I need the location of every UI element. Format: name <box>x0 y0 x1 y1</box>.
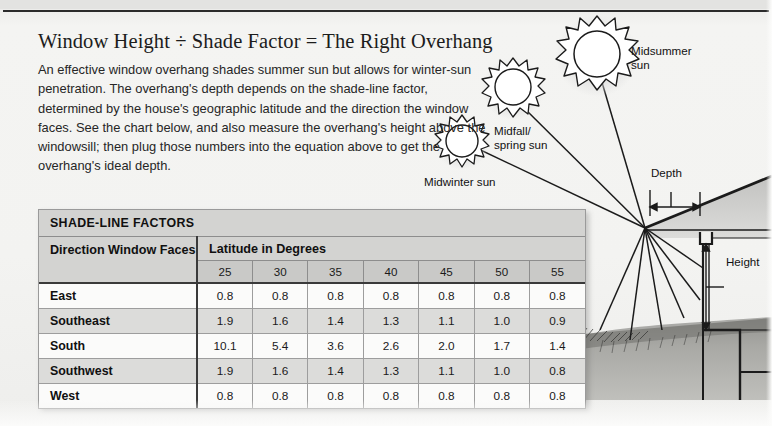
cell-east-35: 0.8 <box>308 283 363 309</box>
shade-line-factors-table: SHADE-LINE FACTORS Direction Window Face… <box>38 209 586 409</box>
cell-south-35: 3.6 <box>308 334 363 359</box>
cell-southwest-50: 1.0 <box>474 359 529 384</box>
cell-east-45: 0.8 <box>419 283 474 309</box>
cell-east-50: 0.8 <box>474 283 529 309</box>
cell-south-25: 10.1 <box>197 334 252 359</box>
cell-east-55: 0.8 <box>529 283 585 309</box>
row-label-southwest: Southwest <box>39 359 197 384</box>
cell-south-40: 2.6 <box>363 334 418 359</box>
column-header-lat-30: 30 <box>252 261 307 284</box>
cell-east-25: 0.8 <box>197 283 252 309</box>
cell-southwest-35: 1.4 <box>308 359 363 384</box>
table-body: SHADE-LINE FACTORS Direction Window Face… <box>39 210 585 408</box>
table-group-header-row: Direction Window Faces Latitude in Degre… <box>39 237 585 261</box>
cell-southeast-40: 1.3 <box>363 309 418 334</box>
cell-southwest-55: 0.8 <box>529 359 585 384</box>
midfall-spring-sun-icon <box>482 58 545 120</box>
row-label-southeast: Southeast <box>39 309 197 334</box>
cell-southeast-55: 0.9 <box>529 309 585 334</box>
column-header-lat-35: 35 <box>308 261 363 284</box>
label-depth: Depth <box>651 166 682 180</box>
cell-southeast-30: 1.6 <box>252 309 307 334</box>
cell-southeast-35: 1.4 <box>308 309 363 334</box>
right-edge-fade <box>766 0 772 426</box>
cell-southwest-25: 1.9 <box>197 359 252 384</box>
intro-paragraph: An effective window overhang shades summ… <box>38 60 490 176</box>
cell-south-55: 1.4 <box>529 334 585 359</box>
label-midfall-spring-sun: Midfall/ spring sun <box>494 124 548 152</box>
row-header-label: Direction Window Faces <box>39 237 197 284</box>
label-midwinter-sun: Midwinter sun <box>424 175 496 189</box>
cell-south-30: 5.4 <box>252 334 307 359</box>
cell-southwest-30: 1.6 <box>252 359 307 384</box>
midsummer-sun-icon <box>556 15 639 97</box>
table-row: Southwest 1.9 1.6 1.4 1.3 1.1 1.0 0.8 <box>39 359 585 384</box>
column-header-lat-45: 45 <box>419 261 474 284</box>
table-caption: SHADE-LINE FACTORS <box>39 210 585 237</box>
column-header-lat-50: 50 <box>474 261 529 284</box>
cell-southeast-45: 1.1 <box>419 309 474 334</box>
label-midsummer-sun: Midsummer sun <box>631 44 692 72</box>
cell-southwest-45: 1.1 <box>419 359 474 384</box>
bottom-fade <box>0 400 772 426</box>
cell-south-45: 2.0 <box>419 334 474 359</box>
column-group-label: Latitude in Degrees <box>197 237 585 261</box>
cell-south-50: 1.7 <box>474 334 529 359</box>
cell-southeast-25: 1.9 <box>197 309 252 334</box>
height-dimension <box>703 244 725 330</box>
article-page: Window Height ÷ Shade Factor = The Right… <box>0 0 772 426</box>
label-height: Height <box>726 255 760 269</box>
table-caption-row: SHADE-LINE FACTORS <box>39 210 585 237</box>
column-header-lat-55: 55 <box>529 261 585 284</box>
row-label-east: East <box>39 283 197 309</box>
table-row: East 0.8 0.8 0.8 0.8 0.8 0.8 0.8 <box>39 283 585 309</box>
column-header-lat-40: 40 <box>363 261 418 284</box>
page-title: Window Height ÷ Shade Factor = The Right… <box>38 30 468 53</box>
cell-southwest-40: 1.3 <box>363 359 418 384</box>
table-row: South 10.1 5.4 3.6 2.6 2.0 1.7 1.4 <box>39 334 585 359</box>
cell-east-40: 0.8 <box>363 283 418 309</box>
row-label-south: South <box>39 334 197 359</box>
column-header-lat-25: 25 <box>197 261 252 284</box>
cell-east-30: 0.8 <box>252 283 307 309</box>
table-row: Southeast 1.9 1.6 1.4 1.3 1.1 1.0 0.9 <box>39 309 585 334</box>
cell-southeast-50: 1.0 <box>474 309 529 334</box>
